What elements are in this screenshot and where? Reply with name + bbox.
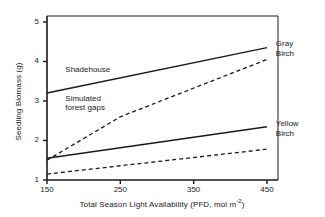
x-tick-label: 450: [252, 185, 282, 194]
chart-annotation: Yellow: [276, 119, 299, 129]
x-tick-label: 150: [32, 185, 62, 194]
chart-annotation: Gray: [276, 39, 293, 49]
x-axis-title-suffix: ): [242, 200, 245, 209]
y-tick-label: 4: [27, 56, 39, 65]
chart-annotation: Birch: [276, 129, 294, 139]
x-tick-label: 350: [179, 185, 209, 194]
chart-figure: Seedling Biomass (g) Total Season Light …: [0, 0, 325, 217]
y-tick-label: 2: [27, 135, 39, 144]
chart-annotation: Birch: [276, 49, 294, 59]
chart-annotation: Shadehouse: [65, 65, 110, 75]
chart-annotation: forest gaps: [65, 103, 105, 113]
series-line: [47, 127, 267, 159]
y-tick-label: 1: [27, 175, 39, 184]
y-tick-label: 3: [27, 96, 39, 105]
y-tick-label: 5: [27, 17, 39, 26]
x-tick-label: 250: [105, 185, 135, 194]
x-axis-title-prefix: Total Season Light Availability (PFD, mo…: [80, 200, 237, 209]
y-axis-title: Seedling Biomass (g): [14, 37, 23, 167]
x-axis-title: Total Season Light Availability (PFD, mo…: [42, 200, 282, 209]
